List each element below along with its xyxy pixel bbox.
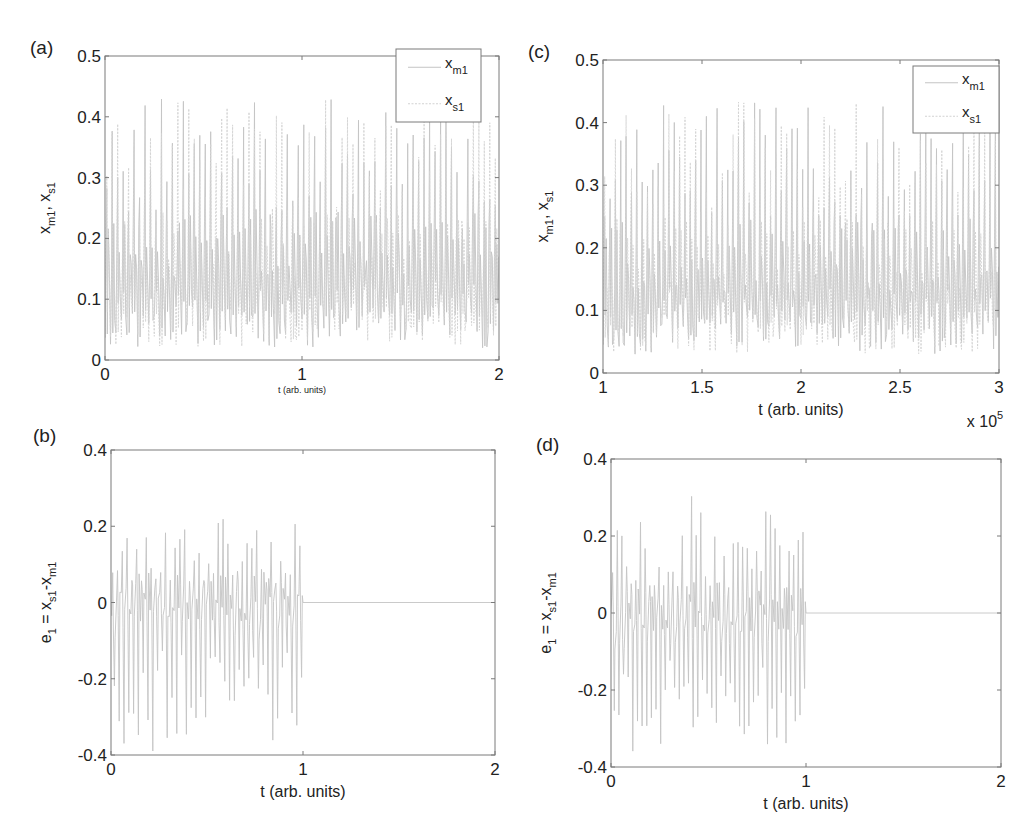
- legend: xm1xs1: [396, 49, 481, 122]
- y-axis-label: e1 = xs1-xm1: [537, 572, 558, 654]
- y-tick-label: 0.4: [575, 114, 599, 133]
- y-axis-label: e1 = xs1-xm1: [37, 562, 58, 644]
- y-tick-label: 0.2: [83, 517, 107, 536]
- panel-label: (a): [30, 37, 53, 58]
- panel-label: (d): [536, 434, 559, 455]
- traces: [105, 99, 499, 348]
- y-tick-label: -0.4: [78, 746, 107, 765]
- x-tick-label: 2: [494, 365, 503, 384]
- x-tick-label: 1.5: [690, 378, 714, 397]
- panel-b: 012-0.4-0.200.20.4(b)t (arb. units)e1 = …: [33, 425, 500, 800]
- x-tick-label: 1: [297, 365, 306, 384]
- x-tick-label: 0: [106, 760, 115, 779]
- y-tick-label: 0.2: [77, 229, 101, 248]
- y-tick-label: 0.5: [575, 51, 599, 70]
- y-tick-label: -0.2: [578, 681, 607, 700]
- y-tick-label: -0.2: [78, 670, 107, 689]
- figure: 01200.10.20.30.40.5(a)t (arb. units)xm1,…: [0, 0, 1031, 832]
- y-tick-label: -0.4: [578, 758, 607, 777]
- x-tick-label: 0: [100, 365, 109, 384]
- x-tick-label: 2: [490, 760, 499, 779]
- x-axis-label: t (arb. units): [758, 401, 843, 418]
- y-tick-label: 0.1: [77, 290, 101, 309]
- y-tick-label: 0.4: [583, 450, 607, 469]
- x-axis-label: t (arb. units): [260, 783, 345, 800]
- panel-d: 012-0.4-0.200.20.4(d)t (arb. units)e1 = …: [536, 434, 1006, 812]
- panel-a: 01200.10.20.30.40.5(a)t (arb. units)xm1,…: [30, 37, 504, 395]
- y-tick-label: 0.1: [575, 301, 599, 320]
- legend: xm1xs1: [913, 66, 999, 133]
- x-axis-label: t (arb. units): [278, 385, 326, 395]
- traces: [611, 496, 1001, 751]
- x-tick-label: 1: [801, 772, 810, 791]
- y-tick-label: 0.3: [77, 169, 101, 188]
- trace-e-1: [111, 519, 495, 751]
- y-tick-label: 0.2: [583, 527, 607, 546]
- x-tick-label: 2: [796, 378, 805, 397]
- y-tick-label: 0: [590, 364, 599, 383]
- y-tick-label: 0.4: [83, 441, 107, 460]
- y-tick-label: 0: [598, 604, 607, 623]
- panel-label: (b): [33, 425, 56, 446]
- traces: [603, 102, 999, 354]
- x-tick-label: 2.5: [888, 378, 912, 397]
- x-axis-multiplier: x 105: [967, 409, 1003, 430]
- x-tick-label: 2: [996, 772, 1005, 791]
- trace-e-1: [611, 496, 1001, 751]
- legend-box: [396, 49, 481, 122]
- traces: [111, 519, 495, 751]
- y-tick-label: 0.3: [575, 176, 599, 195]
- x-tick-label: 1: [598, 378, 607, 397]
- y-tick-label: 0: [98, 594, 107, 613]
- y-tick-label: 0: [92, 351, 101, 370]
- legend-box: [913, 66, 999, 133]
- y-tick-label: 0.2: [575, 239, 599, 258]
- x-tick-label: 1: [298, 760, 307, 779]
- y-tick-label: 0.4: [77, 108, 101, 127]
- x-tick-label: 0: [606, 772, 615, 791]
- y-tick-label: 0.5: [77, 47, 101, 66]
- x-tick-label: 3: [994, 378, 1003, 397]
- y-axis-label: xm1, xs1: [36, 182, 57, 234]
- y-axis-label: xm1, xs1: [534, 191, 555, 243]
- x-axis-label: t (arb. units): [763, 795, 848, 812]
- panel-label: (c): [528, 41, 550, 62]
- panel-c: 11.522.5300.10.20.30.40.5(c)t (arb. unit…: [528, 41, 1004, 430]
